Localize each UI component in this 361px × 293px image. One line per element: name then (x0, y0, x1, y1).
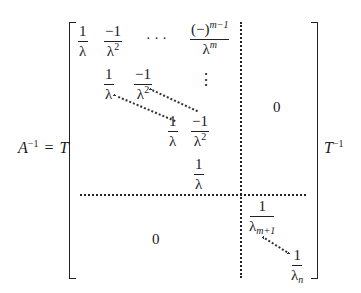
lhs-expression: A−1 = T (18, 140, 68, 156)
diagonal-dots-lower (262, 236, 290, 255)
lower-left-zero-block: 0 (152, 232, 160, 247)
entry-lambda-n: 1 λn (291, 248, 303, 283)
entry-lambda-m-plus-1: 1 λm+1 (249, 199, 275, 234)
right-factor: T (324, 139, 333, 156)
diagonal-dots-super (149, 88, 198, 112)
lhs-matrix: A (18, 139, 28, 156)
entry-r4c4: 1 λ (194, 157, 204, 192)
entry-r3c4: −1 λ2 (191, 114, 209, 149)
left-factor: T (59, 139, 68, 156)
upper-right-zero-block: 0 (273, 100, 281, 115)
right-factor-expression: T−1 (324, 140, 344, 156)
entry-r2c2: 1 λ (104, 67, 114, 102)
column-vdots: ⋮ (198, 72, 214, 88)
entry-r1c4: (−)m−1 λm (190, 22, 229, 57)
row1-ellipsis: · · · (146, 32, 167, 46)
entry-r1c1: 1 λ (78, 24, 88, 59)
entry-r3c3: 1 λ (168, 114, 178, 149)
right-factor-exponent: −1 (333, 138, 344, 149)
entry-r1c2: −1 λ2 (104, 24, 122, 59)
entry-r2c3: −1 λ2 (134, 67, 152, 102)
vertical-partition-line (240, 22, 242, 278)
left-bracket (69, 22, 76, 279)
horizontal-partition-line (80, 194, 306, 196)
equals-sign: = (44, 139, 53, 156)
right-bracket (311, 22, 318, 279)
lhs-exponent: −1 (28, 138, 39, 149)
